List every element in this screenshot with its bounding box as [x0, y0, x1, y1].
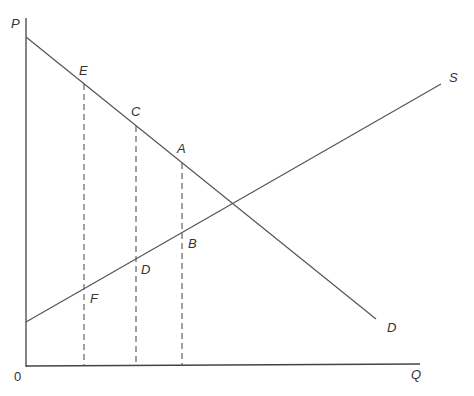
price-axis-label: P [11, 16, 20, 31]
quantity-axis [26, 364, 420, 366]
point-C-label: C [131, 104, 141, 119]
quantity-axis-label: Q [411, 367, 421, 382]
supply-curve-label: S [449, 70, 458, 85]
point-F-label: F [90, 291, 99, 306]
point-A-label: A [176, 141, 186, 156]
supply-curve [26, 84, 441, 322]
supply-demand-diagram: P Q 0 D S E C A B D F [0, 0, 474, 396]
demand-curve-label: D [387, 320, 396, 335]
point-B-label: B [188, 236, 197, 251]
demand-curve [26, 37, 376, 319]
point-E-label: E [79, 63, 88, 78]
point-D-label: D [141, 262, 150, 277]
origin-label: 0 [14, 369, 21, 384]
